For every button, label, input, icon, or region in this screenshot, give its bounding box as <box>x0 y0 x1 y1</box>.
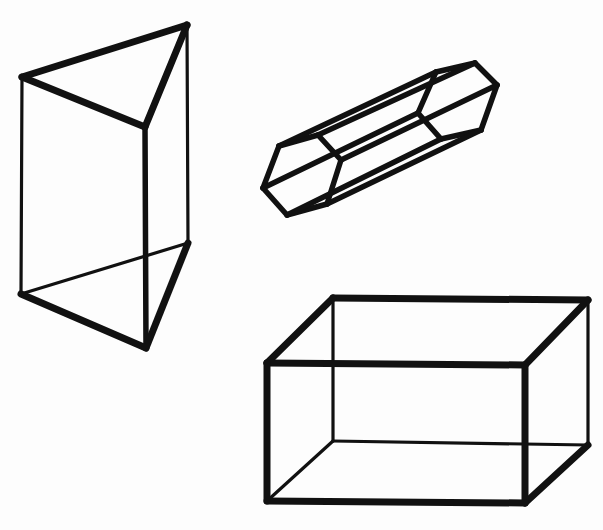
box-front-top-edge <box>267 363 525 365</box>
geometric-solids-illustration <box>0 0 603 530</box>
box-back-top-edge <box>333 298 588 300</box>
tri-vertical-edge-back <box>187 25 188 243</box>
tri-vertical-edge-left <box>21 77 22 294</box>
figure-canvas: Triangular Prism Hexagonal Prism Rectang… <box>0 0 603 530</box>
canvas-background <box>0 0 603 530</box>
tri-vertical-edge-front <box>145 127 146 348</box>
box-front-bottom-edge <box>267 501 525 503</box>
